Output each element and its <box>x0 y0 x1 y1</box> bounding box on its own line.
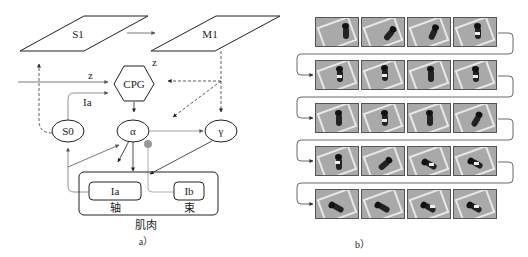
frame-7 <box>407 60 451 90</box>
s1-cortex-node: S1 <box>20 16 148 51</box>
m1-to-alpha-dashed-arrow <box>173 81 221 117</box>
cpg-node: CPG z <box>114 56 157 101</box>
ib-label: Ib <box>184 185 194 197</box>
frame-19 <box>407 189 451 219</box>
s0-label: S0 <box>62 125 74 137</box>
ia-feedback-label: Ia <box>83 96 92 108</box>
inhibitory-synapse-dot <box>144 140 152 148</box>
caption-b: b） <box>355 236 370 251</box>
frame-16 <box>453 146 497 176</box>
caption-a: a） <box>139 236 153 247</box>
motion-frame-sequence <box>280 0 528 257</box>
frame-8 <box>453 60 497 90</box>
m1-cortex-node: M1 <box>151 16 280 51</box>
muscle-title: 肌肉 <box>135 219 157 232</box>
frame-3 <box>407 17 451 47</box>
frame-13 <box>315 146 359 176</box>
frame-9 <box>315 103 359 133</box>
frame-5 <box>315 60 359 90</box>
ia-afferent-to-alpha-arrow <box>68 145 119 167</box>
frame-1 <box>315 17 359 47</box>
cpg-z-label: z <box>152 56 157 68</box>
cpg-label: CPG <box>123 78 144 90</box>
alpha-side-arrow <box>118 141 129 162</box>
ib-feedback-line <box>148 148 174 192</box>
s0-to-s1-dashed-arrow <box>39 64 52 133</box>
s1-label: S1 <box>72 28 84 40</box>
alpha-label: α <box>130 125 136 137</box>
spindle-label: 轴 <box>110 201 121 215</box>
frame-12 <box>453 103 497 133</box>
frame-17 <box>315 189 359 219</box>
tendon-label: 束 <box>184 202 195 215</box>
frame-18 <box>361 189 405 219</box>
frame-14 <box>361 146 405 176</box>
gamma-to-muscle-arrow <box>150 141 212 174</box>
frame-4 <box>453 17 497 47</box>
frame-11 <box>407 103 451 133</box>
neural-control-diagram: S1 M1 CPG z z Ia S0 α γ <box>0 0 280 257</box>
frame-20 <box>453 189 497 219</box>
frame-6 <box>361 60 405 90</box>
gamma-motoneuron-node: γ <box>205 120 237 142</box>
ia-afferent-to-s0-arrow <box>68 148 88 192</box>
muscle-box: Ia Ib 轴 束 <box>79 172 218 215</box>
gamma-label: γ <box>218 125 224 137</box>
m1-label: M1 <box>202 28 217 40</box>
frame-2 <box>361 17 405 47</box>
frame-10 <box>361 103 405 133</box>
alpha-motoneuron-node: α <box>117 120 149 142</box>
z-input-label: z <box>88 69 93 81</box>
s0-node: S0 <box>52 120 84 142</box>
frame-15 <box>407 146 451 176</box>
ia-label: Ia <box>111 185 120 197</box>
